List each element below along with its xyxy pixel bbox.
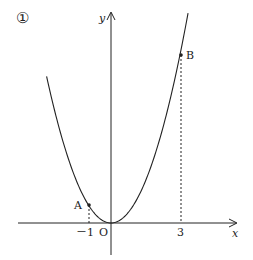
figure-marker: ① [16,9,29,27]
x-axis-label: x [232,227,239,240]
point-a [87,203,91,207]
tick-three: 3 [177,226,184,239]
tick-neg-one: －1 [76,226,94,239]
parabola-figure: ① x y O A B －1 3 [0,0,253,260]
point-b-label: B [186,49,194,62]
y-axis-label: y [98,12,106,25]
point-a-label: A [73,199,83,212]
point-b [179,53,183,57]
origin-label: O [99,226,108,239]
parabola-curve [47,13,188,223]
